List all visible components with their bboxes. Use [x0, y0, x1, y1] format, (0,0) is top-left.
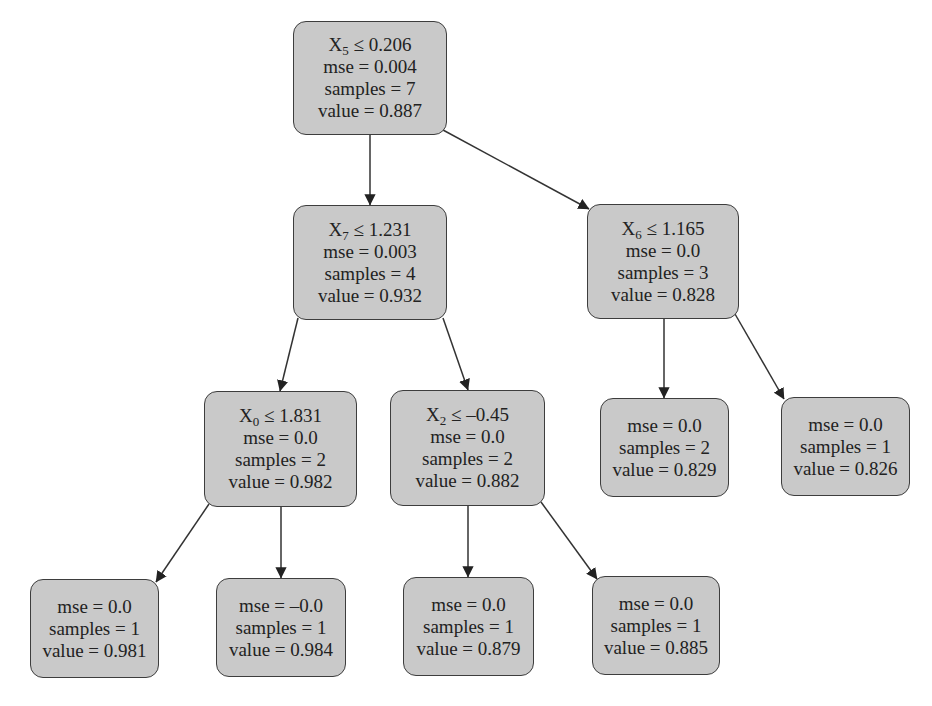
node-mse: mse = 0.0	[626, 240, 701, 262]
node-value: value = 0.887	[318, 100, 422, 122]
tree-node-root: X5 ≤ 0.206 mse = 0.004 samples = 7 value…	[293, 21, 447, 135]
node-mse: mse = 0.0	[808, 414, 883, 436]
decision-tree-diagram: X5 ≤ 0.206 mse = 0.004 samples = 7 value…	[0, 0, 932, 706]
tree-node-split-x2: X2 ≤ –0.45 mse = 0.0 samples = 2 value =…	[390, 390, 545, 506]
node-mse: mse = 0.0	[431, 594, 506, 616]
split-condition: X6 ≤ 1.165	[622, 218, 705, 240]
edge-arrow-n2-n6	[735, 314, 784, 399]
tree-leaf-node: mse = 0.0 samples = 1 value = 0.885	[592, 576, 720, 675]
split-condition: X2 ≤ –0.45	[426, 404, 509, 426]
node-value: value = 0.826	[793, 458, 897, 480]
tree-leaf-node: mse = 0.0 samples = 1 value = 0.826	[781, 397, 910, 496]
tree-leaf-node: mse = 0.0 samples = 1 value = 0.981	[30, 579, 159, 678]
node-value: value = 0.882	[415, 470, 519, 492]
node-value: value = 0.885	[604, 637, 708, 659]
edge-arrow-n1-n3	[280, 318, 298, 391]
node-value: value = 0.981	[42, 640, 146, 662]
node-mse: mse = 0.0	[430, 426, 505, 448]
node-mse: mse = 0.0	[57, 596, 132, 618]
split-condition: X7 ≤ 1.231	[329, 219, 412, 241]
node-samples: samples = 1	[236, 617, 327, 639]
tree-node-split-x0: X0 ≤ 1.831 mse = 0.0 samples = 2 value =…	[204, 391, 357, 507]
tree-node-split-x7: X7 ≤ 1.231 mse = 0.003 samples = 4 value…	[293, 205, 447, 320]
edge-arrow-n3-n7	[156, 504, 209, 582]
node-mse: mse = 0.004	[323, 56, 417, 78]
node-value: value = 0.879	[416, 638, 520, 660]
node-samples: samples = 2	[235, 449, 326, 471]
node-mse: mse = 0.0	[243, 427, 318, 449]
tree-node-split-x6: X6 ≤ 1.165 mse = 0.0 samples = 3 value =…	[587, 204, 739, 319]
node-samples: samples = 1	[423, 616, 514, 638]
node-mse: mse = –0.0	[239, 595, 323, 617]
node-samples: samples = 2	[422, 448, 513, 470]
node-value: value = 0.982	[228, 471, 332, 493]
node-value: value = 0.932	[318, 285, 422, 307]
node-samples: samples = 1	[49, 618, 140, 640]
tree-leaf-node: mse = –0.0 samples = 1 value = 0.984	[216, 578, 346, 677]
node-samples: samples = 7	[325, 78, 416, 100]
split-condition: X5 ≤ 0.206	[329, 34, 412, 56]
node-mse: mse = 0.0	[627, 415, 702, 437]
edge-arrow-n4-n10	[541, 502, 597, 579]
node-value: value = 0.829	[612, 459, 716, 481]
node-mse: mse = 0.003	[323, 241, 417, 263]
edge-arrow-n1-n4	[443, 318, 468, 390]
edge-arrow-n0-n2	[443, 130, 589, 209]
node-samples: samples = 1	[611, 615, 702, 637]
node-samples: samples = 4	[325, 263, 416, 285]
split-condition: X0 ≤ 1.831	[239, 405, 322, 427]
node-samples: samples = 1	[800, 436, 891, 458]
node-samples: samples = 3	[618, 262, 709, 284]
tree-leaf-node: mse = 0.0 samples = 2 value = 0.829	[600, 398, 729, 497]
node-value: value = 0.984	[229, 639, 333, 661]
node-value: value = 0.828	[611, 284, 715, 306]
node-mse: mse = 0.0	[619, 593, 694, 615]
node-samples: samples = 2	[619, 437, 710, 459]
tree-leaf-node: mse = 0.0 samples = 1 value = 0.879	[403, 577, 534, 676]
